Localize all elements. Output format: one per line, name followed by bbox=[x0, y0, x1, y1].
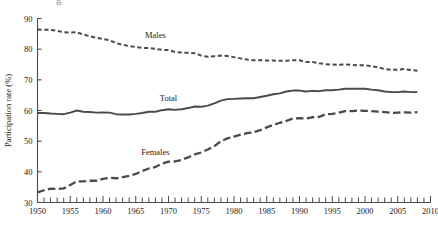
x-tick-label: 1985 bbox=[258, 206, 275, 216]
series-line-males bbox=[38, 30, 418, 71]
y-tick-label: 90 bbox=[24, 14, 33, 24]
x-tick-label: 1995 bbox=[324, 206, 341, 216]
cropped-title-fragment: g bbox=[56, 0, 62, 5]
x-tick-label: 1960 bbox=[95, 206, 112, 216]
series-label-females: Females bbox=[141, 147, 169, 157]
x-tick-label: 1990 bbox=[291, 206, 308, 216]
x-tick-label: 1980 bbox=[226, 206, 243, 216]
x-tick-label: 1955 bbox=[62, 206, 79, 216]
series-label-total: Total bbox=[160, 93, 178, 103]
y-tick-label: 80 bbox=[24, 44, 33, 54]
x-tick-label: 2000 bbox=[357, 206, 374, 216]
data-series-group bbox=[38, 30, 418, 193]
x-tick-label: 1970 bbox=[160, 206, 177, 216]
y-axis: 30405060708090 bbox=[24, 14, 42, 208]
y-tick-label: 60 bbox=[24, 106, 33, 116]
x-axis: 1950195519601965197019751980198519901995… bbox=[29, 196, 438, 216]
participation-rate-chart: g 30405060708090 19501955196019651970197… bbox=[0, 0, 438, 228]
chart-canvas: 30405060708090 1950195519601965197019751… bbox=[0, 0, 438, 228]
x-tick-label: 2005 bbox=[389, 206, 406, 216]
x-tick-label: 1965 bbox=[127, 206, 144, 216]
x-tick-label: 1975 bbox=[193, 206, 210, 216]
y-tick-label: 70 bbox=[24, 75, 33, 85]
y-axis-title: Participation rate (%) bbox=[3, 74, 13, 147]
x-tick-label: 1950 bbox=[29, 206, 46, 216]
series-label-males: Males bbox=[145, 30, 166, 40]
y-tick-label: 40 bbox=[24, 167, 33, 177]
y-tick-label: 50 bbox=[24, 136, 33, 146]
series-line-females bbox=[38, 111, 418, 193]
x-tick-label: 2010 bbox=[422, 206, 438, 216]
